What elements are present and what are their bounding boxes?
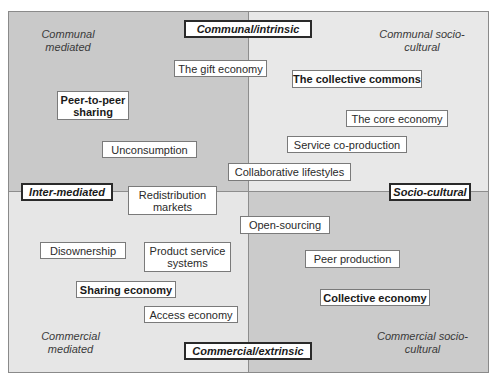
- concept-unconsumption: Unconsumption: [102, 141, 197, 158]
- concept-line: Product service: [150, 245, 226, 257]
- concept-line: Peer-to-peer: [61, 94, 126, 106]
- corner-line: mediated: [28, 343, 113, 356]
- corner-line: mediated: [28, 41, 108, 54]
- corner-label-communal-socio-cultural: Communal socio- cultural: [372, 28, 472, 54]
- corner-line: cultural: [370, 343, 475, 356]
- corner-label-commercial-socio-cultural: Commercial socio- cultural: [370, 330, 475, 356]
- concept-redistribution-markets: Redistribution markets: [128, 186, 217, 215]
- concept-line: sharing: [73, 106, 113, 118]
- concept-product-service-systems: Product service systems: [144, 242, 231, 272]
- concept-service-co-production: Service co-production: [287, 136, 407, 153]
- axis-label-commercial-extrinsic: Commercial/extrinsic: [184, 342, 312, 360]
- corner-line: Communal: [28, 28, 108, 41]
- concept-collective-economy: Collective economy: [320, 289, 430, 306]
- concept-open-sourcing: Open-sourcing: [240, 216, 330, 234]
- axis-label-socio-cultural: Socio-cultural: [389, 183, 471, 201]
- concept-disownership: Disownership: [40, 242, 126, 259]
- concept-collaborative-lifestyles: Collaborative lifestyles: [228, 163, 351, 181]
- concept-the-gift-economy: The gift economy: [174, 60, 267, 77]
- concept-the-core-economy: The core economy: [346, 110, 448, 127]
- concept-line: markets: [153, 201, 192, 213]
- corner-line: Communal socio-: [372, 28, 472, 41]
- concept-line: systems: [167, 257, 207, 269]
- concept-peer-production: Peer production: [305, 250, 400, 268]
- axis-label-inter-mediated: Inter-mediated: [21, 183, 113, 201]
- concept-the-collective-commons: The collective commons: [292, 70, 422, 88]
- concept-line: Redistribution: [139, 189, 206, 201]
- corner-label-communal-mediated: Communal mediated: [28, 28, 108, 54]
- axis-label-communal-intrinsic: Communal/intrinsic: [184, 20, 312, 38]
- corner-line: Commercial: [28, 330, 113, 343]
- concept-sharing-economy: Sharing economy: [76, 281, 176, 298]
- concept-peer-to-peer-sharing: Peer-to-peer sharing: [57, 91, 129, 120]
- corner-label-commercial-mediated: Commercial mediated: [28, 330, 113, 356]
- corner-line: cultural: [372, 41, 472, 54]
- corner-line: Commercial socio-: [370, 330, 475, 343]
- concept-access-economy: Access economy: [144, 306, 238, 323]
